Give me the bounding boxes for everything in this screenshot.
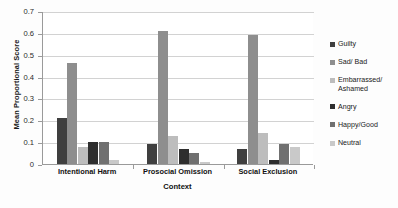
bar: [237, 149, 247, 164]
legend-color-swatch: [330, 141, 335, 146]
y-tick-label: 0.5: [10, 51, 34, 60]
x-tick-mark: [314, 165, 315, 169]
x-category-label: Intentional Harm: [42, 167, 132, 176]
bar: [279, 144, 289, 164]
y-tick-label: 0.3: [10, 94, 34, 103]
y-tick-label: 0.2: [10, 116, 34, 125]
legend-label: Angry: [338, 103, 357, 112]
legend-label: Embarrassed/ Ashamed: [338, 76, 382, 93]
y-tick-mark: [38, 165, 42, 166]
bar: [57, 118, 67, 164]
y-tick-label: 0.6: [10, 29, 34, 38]
bar: [179, 149, 189, 164]
bar: [189, 153, 199, 164]
x-axis-title: Context: [42, 182, 313, 191]
bar: [168, 136, 178, 164]
plot-area: [42, 12, 313, 165]
chart-figure: Mean Proportional Score 0.70.60.50.40.30…: [0, 0, 398, 208]
bar: [158, 31, 168, 164]
legend-item[interactable]: Angry: [330, 103, 398, 112]
legend-item[interactable]: Neutral: [330, 139, 398, 148]
bar-group: [237, 11, 300, 164]
bar: [99, 142, 109, 164]
bar: [78, 147, 88, 164]
bar: [258, 133, 268, 164]
bar: [290, 147, 300, 164]
y-tick-label: 0: [10, 160, 34, 169]
chart-legend: GuiltySad/ BadEmbarrassed/ AshamedAngryH…: [330, 40, 398, 157]
legend-color-swatch: [330, 42, 335, 47]
legend-color-swatch: [330, 60, 335, 65]
legend-label: Sad/ Bad: [338, 58, 367, 67]
x-category-label: Prosocial Omission: [132, 167, 222, 176]
legend-item[interactable]: Happy/Good: [330, 121, 398, 130]
legend-color-swatch: [330, 78, 335, 83]
bar: [67, 63, 77, 164]
bar: [248, 35, 258, 164]
legend-label: Guilty: [338, 40, 356, 49]
x-category-label: Social Exclusion: [223, 167, 313, 176]
legend-item[interactable]: Sad/ Bad: [330, 58, 398, 67]
legend-label: Neutral: [338, 139, 361, 148]
bar: [109, 160, 119, 164]
y-tick-label: 0.7: [10, 7, 34, 16]
legend-item[interactable]: Guilty: [330, 40, 398, 49]
bar-group: [147, 11, 210, 164]
bar: [200, 162, 210, 164]
legend-item[interactable]: Embarrassed/ Ashamed: [330, 76, 398, 93]
bar: [147, 144, 157, 164]
legend-color-swatch: [330, 104, 335, 109]
bar: [88, 142, 98, 164]
bar-group: [57, 11, 120, 164]
y-axis-title: Mean Proportional Score: [12, 25, 21, 145]
legend-color-swatch: [330, 122, 335, 127]
y-tick-label: 0.4: [10, 73, 34, 82]
legend-label: Happy/Good: [338, 121, 378, 130]
y-tick-label: 0.1: [10, 138, 34, 147]
bar: [269, 160, 279, 164]
